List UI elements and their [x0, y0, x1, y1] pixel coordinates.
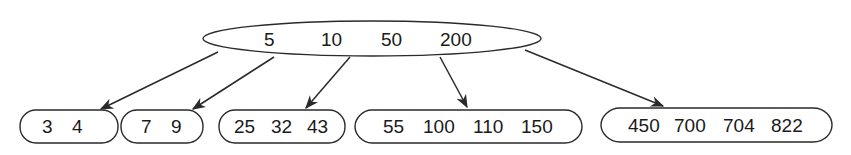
leaf-3-key-1: 25 — [234, 116, 255, 137]
edge-root-to-leaf-4 — [440, 57, 467, 107]
leaf-3-key-3: 43 — [307, 116, 328, 137]
edges — [101, 50, 663, 109]
leaf-node-1: 3 4 — [20, 110, 118, 143]
leaf-5-key-3: 704 — [723, 115, 755, 136]
root-key-2: 10 — [321, 29, 342, 50]
leaf-2-key-1: 7 — [141, 116, 152, 137]
leaf-5-key-1: 450 — [628, 115, 660, 136]
leaf-5-key-2: 700 — [674, 115, 706, 136]
root-node: 5 10 50 200 — [203, 21, 541, 56]
root-key-1: 5 — [264, 29, 275, 50]
leaf-node-5: 450 700 704 822 — [601, 108, 832, 142]
leaf-3-key-2: 32 — [271, 116, 292, 137]
leaf-2-key-2: 9 — [171, 116, 182, 137]
b-tree-diagram: 5 10 50 200 3 4 7 9 25 32 43 55 100 110 … — [0, 0, 851, 155]
edge-root-to-leaf-2 — [193, 57, 274, 109]
leaf-1-key-1: 3 — [42, 116, 53, 137]
leaf-node-4: 55 100 110 150 — [355, 110, 582, 143]
edge-root-to-leaf-5 — [525, 50, 663, 106]
edge-root-to-leaf-1 — [101, 52, 218, 109]
leaf-5-key-4: 822 — [771, 115, 803, 136]
leaf-node-2: 7 9 — [121, 110, 203, 143]
leaf-node-3: 25 32 43 — [219, 110, 345, 143]
root-node-shape — [203, 21, 541, 56]
leaf-4-key-3: 110 — [473, 116, 503, 137]
leaf-4-key-1: 55 — [383, 116, 404, 137]
leaf-1-key-2: 4 — [72, 116, 83, 137]
root-key-3: 50 — [381, 29, 402, 50]
edge-root-to-leaf-3 — [306, 57, 350, 108]
leaf-4-key-2: 100 — [423, 116, 455, 137]
leaf-4-key-4: 150 — [521, 116, 553, 137]
leaf-node-1-shape — [20, 110, 118, 143]
root-key-4: 200 — [440, 29, 472, 50]
leaf-node-2-shape — [121, 110, 203, 143]
